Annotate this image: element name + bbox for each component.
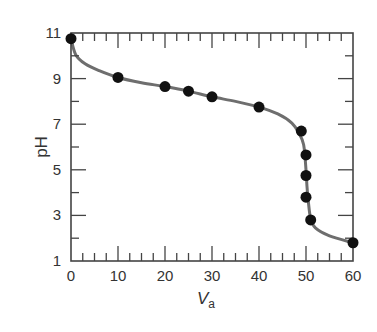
data-point xyxy=(160,81,171,92)
y-tick-label: 7 xyxy=(53,115,61,132)
data-point xyxy=(66,33,77,44)
y-axis-label: pH xyxy=(32,136,51,158)
data-point xyxy=(301,170,312,181)
data-point xyxy=(113,72,124,83)
y-tick-label: 9 xyxy=(53,70,61,87)
x-tick-label: 0 xyxy=(67,267,75,284)
plot-frame xyxy=(71,33,353,261)
y-tick-label: 3 xyxy=(53,206,61,223)
data-point xyxy=(305,214,316,225)
data-point xyxy=(301,149,312,160)
axes xyxy=(71,33,353,261)
y-tick-label: 5 xyxy=(53,161,61,178)
x-axis-label: Va xyxy=(197,289,215,311)
data-point xyxy=(301,192,312,203)
data-point xyxy=(207,91,218,102)
x-tick-label: 30 xyxy=(204,267,221,284)
curve-path xyxy=(71,39,353,243)
y-tick-label: 1 xyxy=(53,252,61,269)
x-tick-label: 60 xyxy=(345,267,362,284)
data-point xyxy=(183,86,194,97)
x-tick-label: 40 xyxy=(251,267,268,284)
x-tick-label: 50 xyxy=(298,267,315,284)
data-point xyxy=(348,237,359,248)
x-tick-label: 10 xyxy=(110,267,127,284)
data-point xyxy=(296,126,307,137)
data-points xyxy=(66,33,359,248)
x-axis-label-sub: a xyxy=(208,297,215,311)
x-tick-label: 20 xyxy=(157,267,174,284)
titration-chart: 01020304050601357911 pH Va xyxy=(0,0,377,332)
titration-curve xyxy=(71,39,353,243)
y-tick-label: 11 xyxy=(45,24,61,41)
tick-labels: 01020304050601357911 xyxy=(45,24,361,284)
data-point xyxy=(254,102,265,113)
